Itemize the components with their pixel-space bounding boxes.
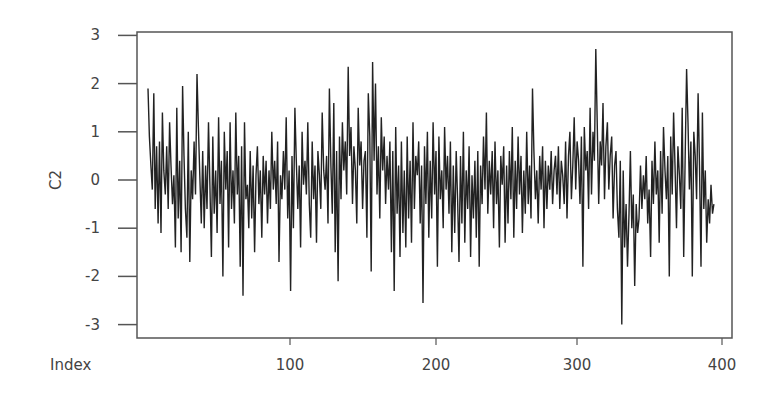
y-tick-label: 0 xyxy=(90,171,100,189)
y-tick-label: 2 xyxy=(90,75,100,93)
y-tick-label: 3 xyxy=(90,26,100,44)
x-axis-title: Index xyxy=(50,356,91,374)
y-tick-label: 1 xyxy=(90,123,100,141)
y-tick-label: -3 xyxy=(85,316,100,334)
y-tick-label: -1 xyxy=(85,219,100,237)
x-tick-label: 100 xyxy=(276,356,305,374)
x-tick-label: 200 xyxy=(422,356,451,374)
y-axis-title: C2 xyxy=(47,170,65,190)
y-tick-label: -2 xyxy=(85,267,100,285)
x-tick-label: 400 xyxy=(708,356,737,374)
x-tick-label: 300 xyxy=(563,356,592,374)
time-series-chart: -3-2-10123 100200300400 C2 Index xyxy=(0,0,775,396)
